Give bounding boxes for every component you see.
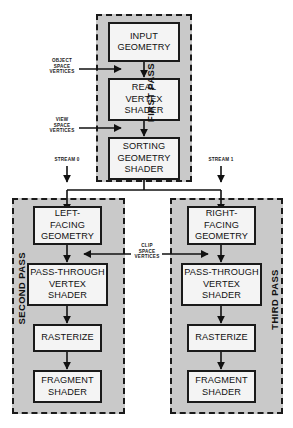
- pass-caption-first: FIRST PASS: [145, 63, 156, 123]
- label-clip-space-vertices: CLIP SPACE VERTICES: [128, 243, 166, 260]
- label-stream-0: STREAM 0: [51, 157, 83, 162]
- node-rasterize-right: RASTERIZE: [187, 324, 256, 352]
- label-object-space-vertices: OBJECT SPACE VERTICES: [44, 58, 80, 75]
- node-left-facing-geometry: LEFT- FACING GEOMETRY: [33, 206, 102, 245]
- diagram-canvas: INPUT GEOMETRY REAL VERTEX SHADER SORTIN…: [0, 0, 293, 428]
- pass-caption-second: SECOND PASS: [16, 255, 27, 325]
- node-fragment-shader-left: FRAGMENT SHADER: [33, 370, 102, 403]
- node-pass-through-vertex-shader-left: PASS-THROUGH VERTEX SHADER: [27, 263, 108, 306]
- node-pass-through-vertex-shader-right: PASS-THROUGH VERTEX SHADER: [181, 263, 262, 306]
- node-rasterize-left: RASTERIZE: [33, 324, 102, 352]
- label-view-space-vertices: VIEW SPACE VERTICES: [44, 117, 80, 134]
- node-right-facing-geometry: RIGHT- FACING GEOMETRY: [187, 206, 256, 245]
- node-sorting-geometry-shader: SORTING GEOMETRY SHADER: [108, 137, 180, 180]
- node-input-geometry: INPUT GEOMETRY: [108, 22, 180, 62]
- node-fragment-shader-right: FRAGMENT SHADER: [187, 370, 256, 403]
- pass-caption-third: THIRD PASS: [269, 268, 280, 332]
- label-stream-1: STREAM 1: [205, 157, 237, 162]
